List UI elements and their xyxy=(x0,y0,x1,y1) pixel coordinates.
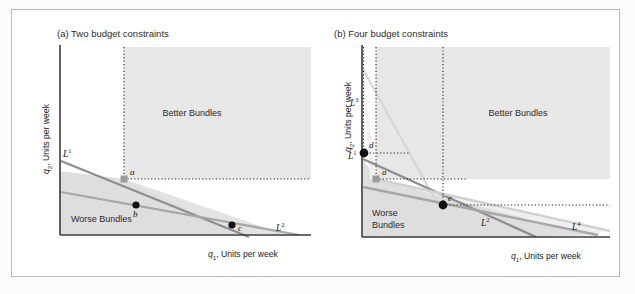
point-e-label: e xyxy=(448,193,452,203)
point-a-marker xyxy=(121,176,128,183)
panel-b: d a e L3 L1 L2 L4 Better Bundles Worse B… xyxy=(318,9,620,277)
y-axis-label-b: q2, Units per week xyxy=(343,81,355,152)
point-d-marker xyxy=(360,149,369,158)
better-bundles-label-a: Better Bundles xyxy=(162,108,222,118)
worse-bundles-label-a: Worse Bundles xyxy=(71,214,132,224)
point-d-label: d xyxy=(369,140,374,150)
panel-a-title: (a) Two budget constraints xyxy=(57,28,169,39)
point-c-marker xyxy=(228,221,235,228)
panel-b-chart: d a e L3 L1 L2 L4 Better Bundles Worse B… xyxy=(318,9,620,277)
point-e-marker xyxy=(439,201,448,210)
line-label-L1-a: L1 xyxy=(62,147,72,159)
figure-container: a b c L1 L2 Better Bundles Worse Bundles… xyxy=(0,0,635,294)
x-axis-label-a: q1, Units per week xyxy=(208,249,279,261)
better-bundles-label-b: Better Bundles xyxy=(488,108,548,118)
point-a-marker-b xyxy=(373,176,380,183)
worse-bundles-label-b-line1: Worse xyxy=(372,208,398,218)
x-axis-label-b: q1, Units per week xyxy=(511,251,582,263)
panel-a: a b c L1 L2 Better Bundles Worse Bundles… xyxy=(11,9,321,277)
point-a-label: a xyxy=(130,167,135,177)
point-c-label: c xyxy=(238,223,242,233)
point-b-label: b xyxy=(133,209,138,219)
worse-bundles-label-b-line2: Bundles xyxy=(372,220,405,230)
point-a-label-b: a xyxy=(382,167,387,177)
panel-b-title: (b) Four budget constraints xyxy=(334,28,448,39)
y-axis-label-a: q2, Units per week xyxy=(41,103,53,174)
panel-a-chart: a b c L1 L2 Better Bundles Worse Bundles… xyxy=(11,9,321,277)
point-b-marker xyxy=(132,201,139,208)
